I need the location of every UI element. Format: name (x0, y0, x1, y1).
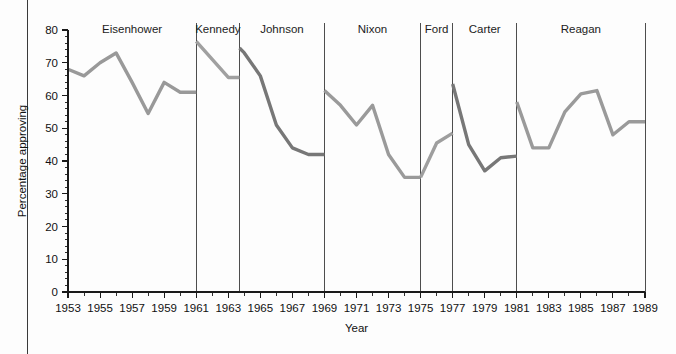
chart-page: 01020304050607080 1953195519571959196119… (0, 0, 676, 354)
x-tick-label: 1965 (248, 302, 274, 314)
series-line-carter (453, 84, 517, 171)
x-axis-tick-labels: 1953195519571959196119631965196719691971… (55, 302, 658, 314)
x-tick-label: 1981 (504, 302, 530, 314)
x-tick-label: 1989 (632, 302, 658, 314)
y-tick-label: 60 (45, 90, 58, 102)
president-labels: EisenhowerKennedyJohnsonNixonFordCarterR… (102, 23, 601, 35)
x-axis-major-ticks (68, 292, 645, 298)
x-tick-label: 1963 (215, 302, 241, 314)
series-lines (68, 41, 645, 177)
y-tick-label: 30 (45, 188, 58, 200)
x-tick-label: 1979 (472, 302, 498, 314)
president-label-reagan: Reagan (561, 23, 601, 35)
x-tick-label: 1983 (536, 302, 562, 314)
y-axis-title: Percentage approving (16, 105, 28, 218)
x-tick-label: 1975 (408, 302, 434, 314)
president-label-carter: Carter (469, 23, 501, 35)
x-tick-label: 1971 (344, 302, 370, 314)
y-tick-label: 80 (45, 24, 58, 36)
series-line-johnson (240, 48, 325, 154)
y-tick-label: 70 (45, 57, 58, 69)
presidential-term-dividers (196, 23, 645, 292)
president-label-ford: Ford (425, 23, 449, 35)
x-tick-label: 1961 (183, 302, 209, 314)
x-tick-label: 1987 (600, 302, 626, 314)
x-axis-title: Year (345, 322, 368, 334)
x-tick-label: 1953 (55, 302, 81, 314)
series-line-nixon (324, 91, 420, 178)
y-tick-label: 50 (45, 122, 58, 134)
x-tick-label: 1977 (440, 302, 466, 314)
series-line-ford (421, 133, 453, 177)
y-tick-label: 20 (45, 221, 58, 233)
approval-ratings-line-chart: 01020304050607080 1953195519571959196119… (0, 0, 676, 354)
y-tick-label: 10 (45, 253, 58, 265)
x-tick-label: 1959 (151, 302, 177, 314)
y-axis-tick-labels: 01020304050607080 (45, 24, 58, 298)
president-label-kennedy: Kennedy (195, 23, 241, 35)
y-tick-label: 0 (52, 286, 58, 298)
x-tick-label: 1955 (87, 302, 113, 314)
x-tick-label: 1967 (280, 302, 306, 314)
x-tick-label: 1969 (312, 302, 338, 314)
president-label-eisenhower: Eisenhower (102, 23, 162, 35)
series-line-reagan (517, 91, 645, 148)
x-tick-label: 1973 (376, 302, 402, 314)
x-tick-label: 1985 (568, 302, 594, 314)
series-line-eisenhower (68, 53, 196, 114)
president-label-johnson: Johnson (260, 23, 303, 35)
y-tick-label: 40 (45, 155, 58, 167)
series-line-kennedy (196, 41, 239, 77)
president-label-nixon: Nixon (358, 23, 387, 35)
x-tick-label: 1957 (119, 302, 145, 314)
